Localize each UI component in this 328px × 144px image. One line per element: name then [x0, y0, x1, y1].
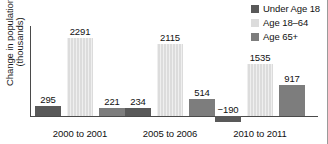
- legend-label: Under Age 18: [263, 3, 320, 14]
- bar[interactable]: [125, 108, 151, 116]
- category-label: 2000 to 2001: [34, 128, 126, 139]
- bar[interactable]: [99, 108, 125, 116]
- y-axis-line: [30, 26, 31, 116]
- bar-column[interactable]: 234: [125, 24, 151, 116]
- bar[interactable]: [67, 38, 93, 116]
- legend-swatch-icon: [251, 19, 259, 27]
- bar-value-label: 295: [40, 95, 56, 105]
- bar-group: 2952291221: [34, 24, 126, 116]
- bar[interactable]: [247, 64, 273, 116]
- bar-column[interactable]: 295: [35, 24, 61, 116]
- bar-group: 2342115514: [124, 24, 216, 116]
- bar-value-label: 221: [104, 97, 120, 107]
- zero-axis-line: [30, 116, 318, 117]
- legend-swatch-icon: [251, 5, 259, 13]
- population-change-bar-chart: Change in population (thousands) 2952291…: [0, 0, 328, 144]
- bar[interactable]: [189, 99, 215, 116]
- bar-column[interactable]: 221: [99, 24, 125, 116]
- legend-label: Age 65+: [263, 31, 298, 42]
- y-axis-title: Change in population (thousands): [1, 0, 29, 102]
- bar-value-label: 2291: [70, 27, 91, 37]
- bar-value-label: 2115: [160, 33, 180, 43]
- bar-column[interactable]: 514: [189, 24, 215, 116]
- bar-value-label: −190: [218, 105, 239, 115]
- category-label: 2005 to 2006: [124, 128, 216, 139]
- bar-value-label: 234: [130, 97, 146, 107]
- legend-item-age-65-plus[interactable]: Age 65+: [251, 31, 320, 42]
- bar[interactable]: [35, 106, 61, 116]
- legend-item-age-18-64[interactable]: Age 18–64: [251, 17, 320, 28]
- bar-column[interactable]: 2115: [157, 24, 183, 116]
- legend-label: Age 18–64: [263, 17, 308, 28]
- category-label: 2010 to 2011: [214, 128, 306, 139]
- bar-column[interactable]: −190: [215, 24, 241, 116]
- legend-swatch-icon: [251, 33, 259, 41]
- bar-column[interactable]: 2291: [67, 24, 93, 116]
- bar-value-label: 514: [194, 88, 210, 98]
- legend-item-under-age-18[interactable]: Under Age 18: [251, 3, 320, 14]
- y-axis-title-line2: (thousands): [15, 17, 25, 66]
- bar-value-label: 1535: [250, 53, 271, 63]
- bar[interactable]: [279, 85, 305, 116]
- bar[interactable]: [157, 44, 183, 116]
- bar-value-label: 917: [284, 74, 300, 84]
- legend: Under Age 18 Age 18–64 Age 65+: [251, 3, 320, 42]
- bar[interactable]: [215, 116, 241, 122]
